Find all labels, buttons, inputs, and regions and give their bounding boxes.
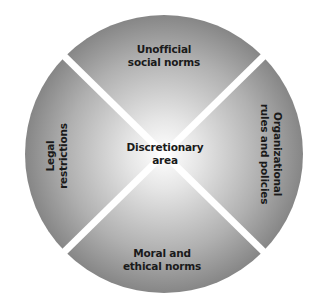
segment-left-label: Legal restrictions	[44, 123, 70, 189]
segment-right-label: Organizational rules and policies	[258, 104, 284, 205]
center-label: Discretionary area	[127, 141, 204, 167]
segment-top-label: Unofficial social norms	[128, 43, 200, 69]
segment-bottom-label: Moral and ethical norms	[123, 247, 201, 273]
